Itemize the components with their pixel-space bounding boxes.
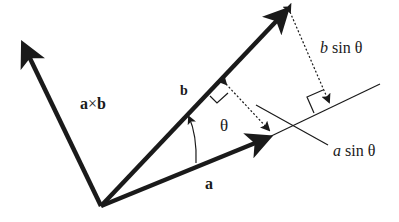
- a-sin-theta-label: a sin θ: [333, 143, 375, 159]
- right-angle-marker-b-line: [210, 93, 228, 103]
- a-extension-line: [265, 84, 380, 139]
- b-sin-theta-angle: θ: [355, 39, 363, 56]
- a-sin-theta-func: sin: [341, 142, 368, 159]
- theta-arc: [189, 117, 196, 163]
- vector-b: [101, 13, 284, 206]
- a-vector-label: a: [205, 176, 213, 192]
- a-sin-theta-leader-line: [256, 105, 328, 145]
- a-sin-theta-angle: θ: [368, 142, 376, 159]
- b-sin-theta-dotted-line: [290, 12, 329, 102]
- theta-label: θ: [220, 117, 228, 134]
- a-cross-b-label: a×b: [80, 96, 106, 112]
- a-cross-b-label-times: ×: [88, 95, 97, 112]
- a-cross-b-label-a: a: [80, 95, 88, 112]
- vector-a: [101, 139, 265, 206]
- b-sin-theta-func: sin: [328, 39, 355, 56]
- a-sin-theta-var: a: [333, 142, 341, 159]
- b-sin-theta-label: b sin θ: [320, 40, 362, 56]
- vector-a-cross-b: [25, 48, 101, 206]
- cross-product-diagram: [0, 0, 399, 222]
- right-angle-marker-a-line: [307, 90, 323, 113]
- a-sin-theta-dotted-line: [226, 84, 269, 130]
- a-cross-b-label-b: b: [97, 95, 106, 112]
- b-vector-label: b: [180, 84, 188, 98]
- b-sin-theta-var: b: [320, 39, 328, 56]
